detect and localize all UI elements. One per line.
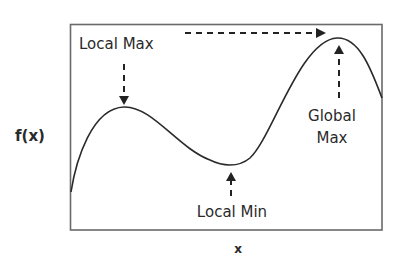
global-arrowhead-icon — [316, 28, 326, 38]
local-min-arrowhead-icon — [226, 172, 236, 181]
x-axis-label: x — [234, 242, 242, 256]
local-max-arrowhead-icon — [119, 96, 129, 105]
global-max-arrowhead-icon — [334, 45, 344, 54]
optimization-diagram: Local Max Local Min Global Max f(x) x — [0, 0, 401, 262]
global-max-label-line1: Global — [308, 107, 356, 125]
local-min-label: Local Min — [197, 203, 267, 221]
global-max-label-line2: Max — [316, 129, 347, 147]
plot-frame — [71, 25, 383, 231]
y-axis-label: f(x) — [15, 127, 45, 145]
local-max-label: Local Max — [79, 35, 154, 53]
